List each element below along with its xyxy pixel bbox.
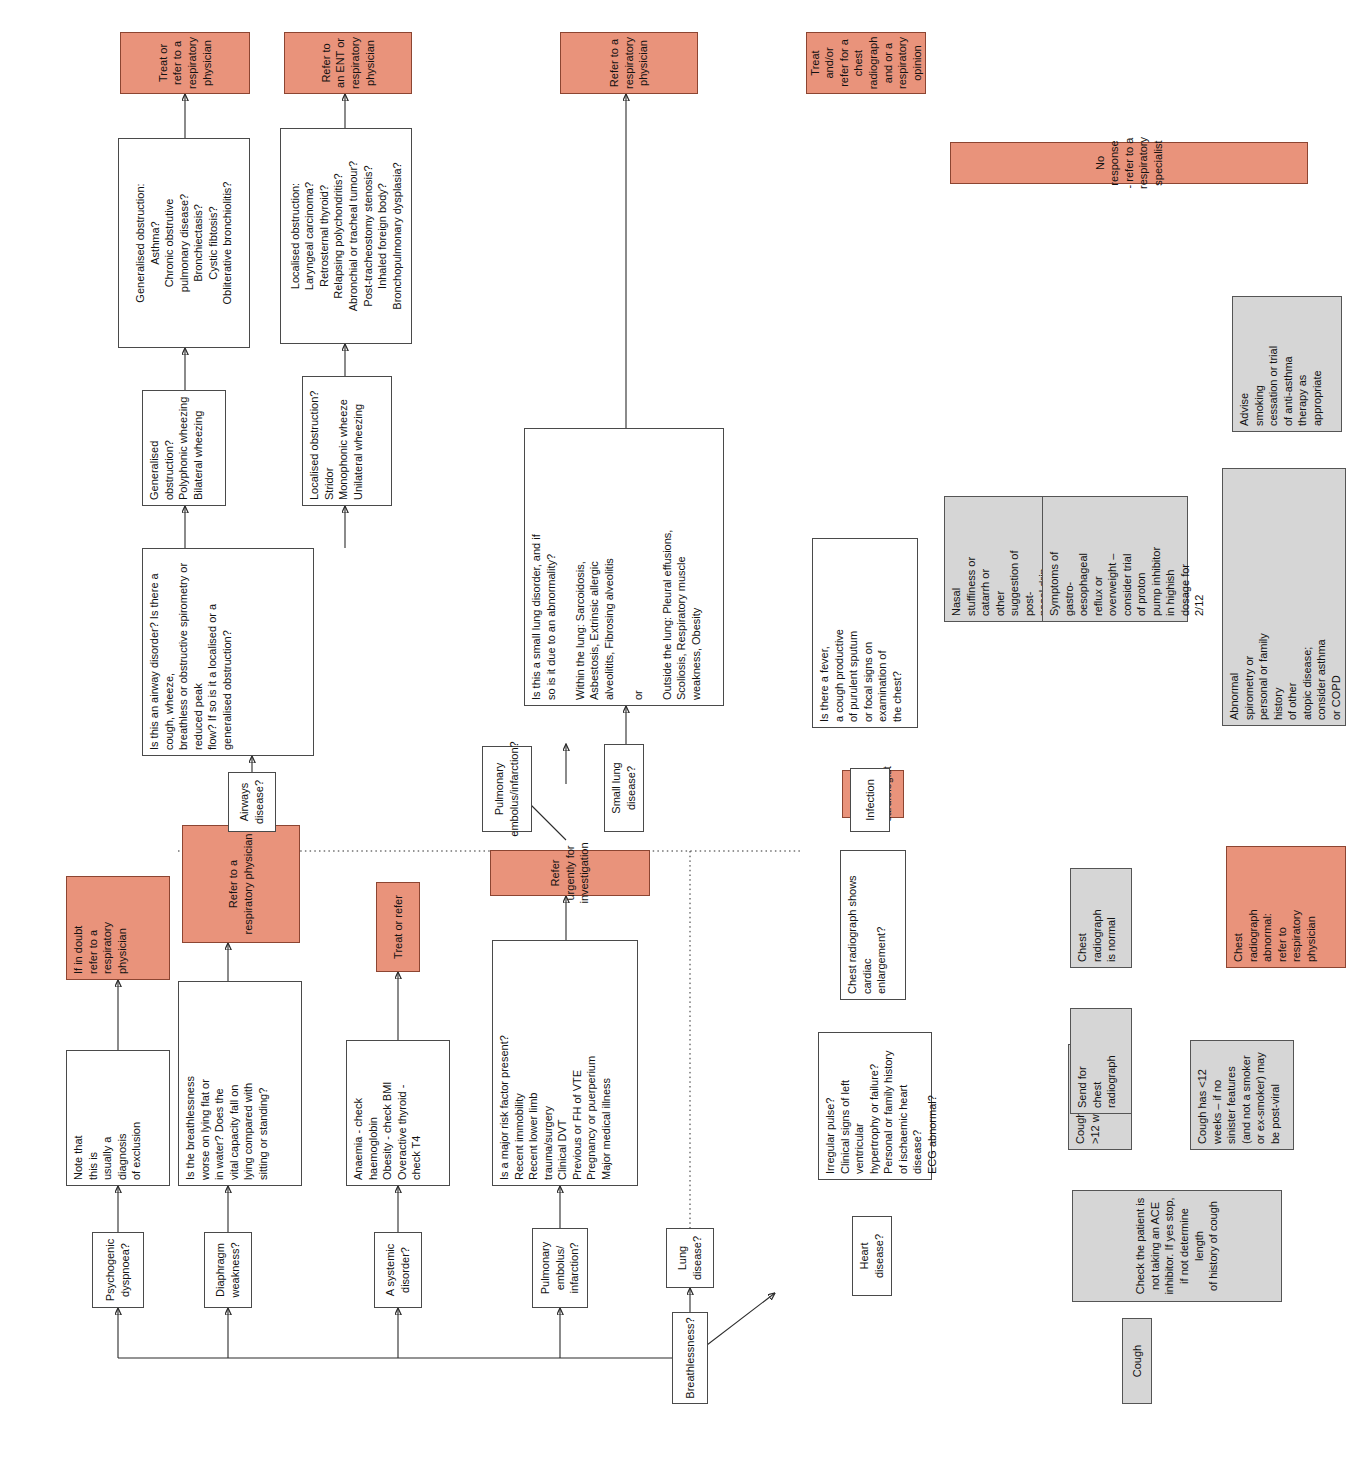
action-systemic-treat-or-refer[interactable]: Treat or refer (376, 882, 420, 972)
action-no-response-refer[interactable]: No response - refer to a respiratory spe… (950, 142, 1308, 184)
outcome-gastro-oesophageal-reflux[interactable]: Symptoms of gastro- oesophageal reflux o… (1042, 496, 1188, 622)
signs-generalised-obstruction: Generalised obstruction? Polyphonic whee… (142, 390, 226, 506)
action-localised-obstruction[interactable]: Refer to an ENT or respiratory physician (284, 32, 412, 94)
action-radiograph-abnormal[interactable]: Chest radiograph abnormal: refer to resp… (1226, 846, 1346, 968)
action-infection-refer[interactable]: Treat and/or refer for a chest radiograp… (806, 32, 926, 94)
outcome-abnormal-spirometry[interactable]: Abnormal spirometry or personal or famil… (1222, 468, 1346, 726)
action-diaphragm-refer[interactable]: Refer to a respiratory physician (182, 825, 300, 943)
causes-localised-obstruction: Localised obstruction: Laryngeal carcino… (280, 128, 412, 344)
signs-localised-obstruction: Localised obstruction? Stridor Monophoni… (302, 376, 392, 506)
detail-small-lung-disease: Is this a small lung disorder, and if so… (524, 428, 724, 706)
detail-heart-disease: Irregular pulse? Clinical signs of left … (818, 1032, 932, 1180)
node-heart-disease[interactable]: Heart disease? (852, 1216, 892, 1296)
node-pulmonary-embolus-lung[interactable]: Pulmonary embolus/infarction? (482, 746, 532, 832)
action-refer-urgently[interactable]: Refer urgently for investigation (490, 850, 650, 896)
action-small-lung-refer[interactable]: Refer to a respiratory physician (560, 32, 698, 94)
detail-infection: Is there a fever, a cough productive of … (812, 538, 918, 728)
node-breathlessness[interactable]: Breathlessness? (672, 1312, 708, 1404)
step-advise-smoking-cessation[interactable]: Advise smoking cessation or trial of ant… (1232, 296, 1342, 432)
node-systemic-disorder[interactable]: A systemic disorder? (374, 1232, 422, 1308)
action-psychogenic-refer[interactable]: If in doubt refer to a respiratory physi… (66, 876, 170, 980)
step-send-for-radiograph[interactable]: Send for chest radiograph (1070, 1008, 1132, 1114)
node-diaphragm-weakness[interactable]: Diaphragm weakness? (204, 1232, 252, 1308)
detail-pulmonary-embolus: Is a major risk factor present? Recent i… (492, 940, 638, 1186)
node-small-lung-disease[interactable]: Small lung disease? (604, 744, 644, 832)
node-pulmonary-embolus[interactable]: Pulmonary embolus/ infarction? (532, 1228, 588, 1308)
step-ace-inhibitor-check[interactable]: Check the patient is not taking an ACE i… (1072, 1190, 1282, 1302)
detail-systemic: Anaemia - check haemoglobin Obesity - ch… (346, 1040, 450, 1186)
node-psychogenic-dyspnoea[interactable]: Psychogenic dyspnoea? (92, 1232, 144, 1308)
detail-heart-radiograph: Chest radiograph shows cardiac enlargeme… (840, 850, 906, 1000)
node-lung-disease[interactable]: Lung disease? (666, 1228, 714, 1288)
question-airway-disorder: Is this an airway disorder? Is there a c… (142, 548, 314, 756)
step-radiograph-normal[interactable]: Chest radiograph is normal (1070, 868, 1132, 968)
node-airways-disease[interactable]: Airways disease? (228, 772, 276, 832)
step-cough-under-12-weeks[interactable]: Cough has <12 weeks – if no sinister fea… (1190, 1040, 1294, 1150)
action-generalised-obstruction[interactable]: Treat or refer to a respiratory physicia… (120, 32, 250, 94)
node-infection[interactable]: Infection (850, 768, 890, 832)
causes-generalised-obstruction: Generalised obstruction: Asthma? Chronic… (118, 138, 250, 348)
detail-diaphragm: Is the breathlessness worse on lying fla… (178, 981, 302, 1186)
node-cough[interactable]: Cough (1122, 1318, 1152, 1404)
detail-psychogenic: Note that this is usually a diagnosis of… (66, 1050, 170, 1186)
